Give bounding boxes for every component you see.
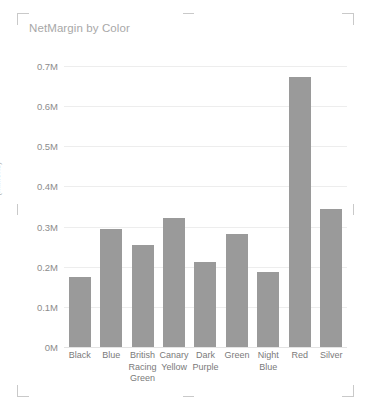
bar[interactable] xyxy=(69,277,91,347)
bar-slot xyxy=(253,66,284,347)
x-axis-tick-label: Silver xyxy=(316,350,347,362)
bar-slot xyxy=(127,66,158,347)
resize-handle-right-icon[interactable] xyxy=(353,204,354,215)
x-axis-tick-label: Night Blue xyxy=(253,350,284,373)
bar[interactable] xyxy=(132,245,154,347)
resize-handle-bottom-left-icon[interactable] xyxy=(17,385,29,397)
bar-slot xyxy=(284,66,315,347)
chart-visual-container[interactable]: NetMargin by Color (Millions) 0M0.1M0.2M… xyxy=(0,0,367,409)
y-axis-tick-label: 0.1M xyxy=(37,301,58,312)
gridline xyxy=(64,347,347,348)
y-axis-tick-label: 0.2M xyxy=(37,261,58,272)
bar[interactable] xyxy=(163,218,185,347)
y-axis-tick-label: 0M xyxy=(45,342,58,353)
y-axis-title: (Millions) xyxy=(0,162,2,196)
x-axis-tick-labels: BlackBlueBritish Racing GreenCanary Yell… xyxy=(64,350,347,406)
bar-slot xyxy=(190,66,221,347)
bar-slot xyxy=(95,66,126,347)
bar-slot xyxy=(158,66,189,347)
x-axis-tick-label: Blue xyxy=(95,350,126,362)
bar[interactable] xyxy=(194,262,216,348)
bar[interactable] xyxy=(100,229,122,347)
bar-series xyxy=(64,66,347,347)
bar-slot xyxy=(64,66,95,347)
resize-handle-top-icon[interactable] xyxy=(183,13,194,14)
x-axis-tick-label: Green xyxy=(221,350,252,362)
bar-slot xyxy=(221,66,252,347)
resize-handle-top-left-icon[interactable] xyxy=(17,13,29,25)
bar[interactable] xyxy=(320,209,342,347)
resize-handle-top-right-icon[interactable] xyxy=(342,13,354,25)
y-axis-tick-label: 0.5M xyxy=(37,141,58,152)
x-axis-tick-label: British Racing Green xyxy=(127,350,158,385)
chart-title: NetMargin by Color xyxy=(29,22,130,34)
y-axis-tick-label: 0.4M xyxy=(37,181,58,192)
bar[interactable] xyxy=(226,234,248,347)
y-axis-tick-label: 0.7M xyxy=(37,61,58,72)
y-axis-tick-label: 0.3M xyxy=(37,221,58,232)
x-axis-tick-label: Canary Yellow xyxy=(158,350,189,373)
x-axis-tick-label: Dark Purple xyxy=(190,350,221,373)
bar[interactable] xyxy=(289,77,311,347)
y-axis-tick-labels: 0M0.1M0.2M0.3M0.4M0.5M0.6M0.7M xyxy=(14,66,58,347)
x-axis-tick-label: Black xyxy=(64,350,95,362)
bar[interactable] xyxy=(257,272,279,347)
x-axis-tick-label: Red xyxy=(284,350,315,362)
bar-slot xyxy=(316,66,347,347)
y-axis-tick-label: 0.6M xyxy=(37,101,58,112)
